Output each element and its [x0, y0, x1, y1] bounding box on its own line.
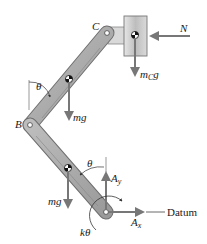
label-ax: Ax: [130, 216, 142, 230]
label-datum: Datum: [167, 206, 197, 218]
lower-link-centroid-icon: [64, 164, 71, 171]
label-spring-moment: kθ: [80, 226, 91, 238]
label-lower-theta: θ: [87, 157, 93, 169]
label-block-weight: mCg: [140, 68, 159, 82]
label-ay: Ay: [110, 172, 122, 186]
label-n: N: [179, 22, 188, 34]
mechanism-diagram: N mCg mg θ B C mg θ Ay Ax kθ Datum: [0, 0, 207, 244]
upper-link-centroid-icon: [65, 75, 72, 82]
pin-a: [104, 210, 109, 215]
label-upper-weight: mg: [73, 111, 87, 123]
block-centroid-icon: [131, 31, 138, 38]
label-lower-weight: mg: [48, 195, 62, 207]
pin-c: [105, 31, 110, 36]
label-upper-theta: θ: [36, 80, 42, 92]
label-b: B: [15, 118, 22, 130]
label-c: C: [92, 20, 100, 32]
pin-b: [28, 123, 33, 128]
